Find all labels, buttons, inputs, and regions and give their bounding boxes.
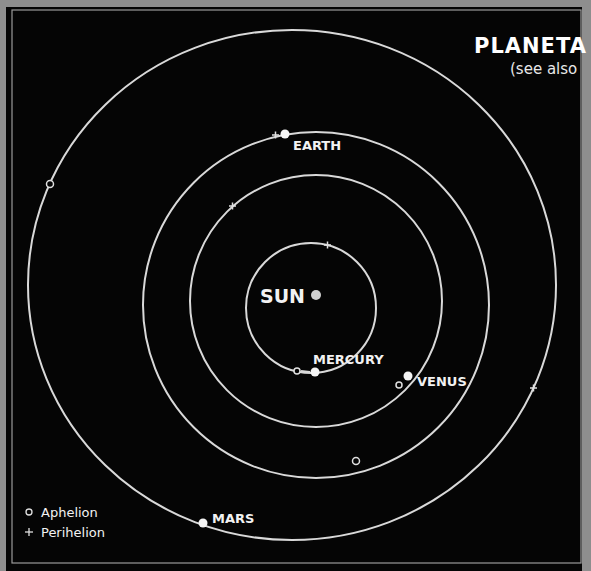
- mercury-marker-link: [301, 371, 310, 372]
- earth-aphelion-icon: [353, 458, 360, 465]
- perihelion-legend-icon: [25, 528, 33, 536]
- orbit-diagram: SUN EARTH MERCURY VENUS MARS Aphelion Pe…: [0, 0, 591, 571]
- mercury-perihelion-icon: [324, 242, 331, 249]
- sun-label: SUN: [260, 285, 305, 307]
- diagram-subtitle: (see also: [510, 60, 577, 78]
- legend: Aphelion Perihelion: [25, 505, 105, 540]
- venus-orbit: [190, 175, 442, 427]
- earth-planet-icon: [281, 130, 290, 139]
- mars-aphelion-icon: [47, 181, 54, 188]
- aphelion-legend-label: Aphelion: [41, 505, 98, 520]
- venus-aphelion-icon: [396, 382, 402, 388]
- sun-icon: [311, 290, 321, 300]
- mars-planet-icon: [199, 519, 208, 528]
- mercury-aphelion-icon: [294, 368, 300, 374]
- mercury-label: MERCURY: [313, 352, 384, 367]
- venus-planet-icon: [404, 372, 413, 381]
- aphelion-legend-icon: [26, 509, 32, 515]
- mars-perihelion-icon: [530, 385, 537, 392]
- mercury-planet-icon: [311, 368, 320, 377]
- venus-label: VENUS: [417, 374, 467, 389]
- perihelion-legend-label: Perihelion: [41, 525, 105, 540]
- mars-label: MARS: [212, 511, 254, 526]
- earth-label: EARTH: [293, 138, 341, 153]
- diagram-title: PLANETA: [474, 34, 587, 58]
